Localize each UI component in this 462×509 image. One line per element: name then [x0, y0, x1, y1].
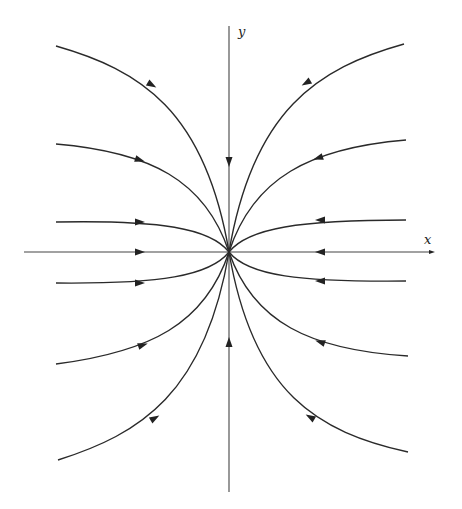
x-neg-arrow-icon [135, 249, 145, 256]
x-pos-arrow-icon [315, 249, 325, 256]
arrow-icon [312, 153, 324, 163]
arrow-icon [149, 412, 161, 423]
phase-portrait: x y [0, 0, 462, 509]
y-axis-label: y [237, 24, 246, 39]
y-neg-arrow-icon [226, 337, 233, 347]
arrow-icon [134, 155, 146, 165]
x-axis-tip-icon [429, 250, 435, 254]
arrow-icon [300, 77, 312, 88]
x-axis-label: x [424, 232, 432, 247]
arrow-icon [304, 411, 316, 422]
trajectory-lower-left-inner [56, 252, 229, 283]
direction-arrows [134, 77, 435, 423]
y-pos-arrow-icon [226, 157, 233, 167]
trajectory-upper-right-inner [229, 220, 406, 252]
arrow-icon [135, 219, 145, 226]
trajectory-upper-left-inner [56, 222, 229, 252]
trajectory-lower-right-inner [229, 252, 406, 281]
